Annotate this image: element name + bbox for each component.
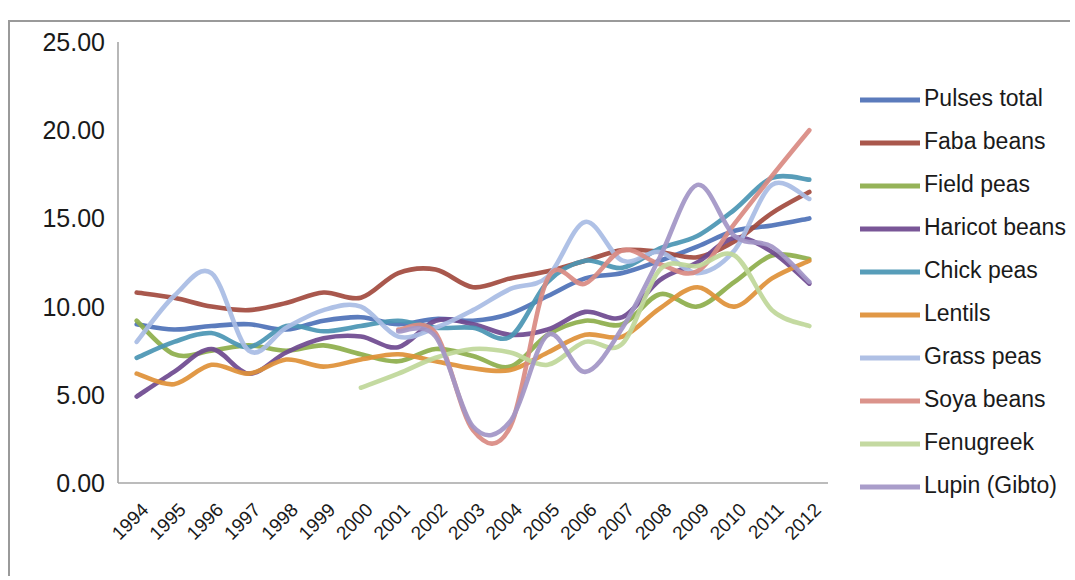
x-axis-tick-label: 2001 [369, 499, 414, 544]
y-axis-tick-label: 5.00 [56, 381, 105, 409]
x-axis-tick-label: 2009 [668, 499, 713, 544]
chart-legend: Pulses totalFaba beansField peasHaricot … [860, 85, 1066, 498]
legend-item-label: Lentils [924, 300, 990, 326]
x-axis-tick-label: 2005 [519, 499, 564, 544]
x-axis-tick-label: 2012 [780, 499, 825, 544]
legend-item-label: Pulses total [924, 85, 1043, 111]
y-axis-tick-label: 10.00 [42, 293, 105, 321]
line-chart: 0.005.0010.0015.0020.0025.00 19941995199… [0, 0, 1075, 580]
x-axis-tick-label: 1998 [257, 499, 302, 544]
x-axis-tick-label: 1995 [145, 499, 190, 544]
legend-item-label: Grass peas [924, 343, 1042, 369]
legend-item-label: Soya beans [924, 386, 1045, 412]
x-axis-tick-label: 1996 [182, 499, 227, 544]
x-axis-tick-label: 2007 [594, 499, 639, 544]
x-axis-tick-label: 2008 [631, 499, 676, 544]
y-axis-tick-label: 20.00 [42, 116, 105, 144]
y-axis-tick-labels: 0.005.0010.0015.0020.0025.00 [42, 28, 105, 497]
x-axis-tick-label: 2002 [407, 499, 452, 544]
x-axis-tick-label: 2004 [481, 499, 526, 544]
series-line [137, 218, 810, 329]
x-axis-tick-label: 2011 [744, 499, 788, 543]
legend-item-label: Chick peas [924, 257, 1038, 283]
x-axis-tick-label: 2010 [706, 499, 751, 544]
series-lines [137, 130, 810, 443]
x-axis-tick-label: 2000 [332, 499, 377, 544]
y-axis-tick-label: 15.00 [42, 204, 105, 232]
legend-item-label: Faba beans [924, 128, 1045, 154]
x-axis-tick-label: 2006 [556, 499, 601, 544]
chart-page: 0.005.0010.0015.0020.0025.00 19941995199… [0, 0, 1075, 580]
x-axis-tick-label: 1994 [108, 499, 153, 544]
legend-item-label: Fenugreek [924, 429, 1034, 455]
x-axis-tick-label: 1999 [295, 499, 340, 544]
legend-item-label: Field peas [924, 171, 1030, 197]
x-axis-tick-labels: 1994199519961997199819992000200120022003… [108, 499, 825, 544]
x-axis-tick-label: 2003 [444, 499, 489, 544]
legend-item-label: Haricot beans [924, 214, 1066, 240]
y-axis-tick-label: 0.00 [56, 469, 105, 497]
legend-item-label: Lupin (Gibto) [924, 472, 1057, 498]
y-axis-tick-label: 25.00 [42, 28, 105, 56]
x-axis-tick-label: 1997 [220, 499, 265, 544]
